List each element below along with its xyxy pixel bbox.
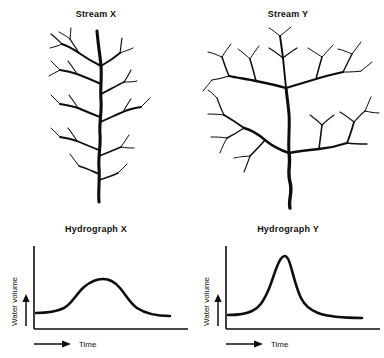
- stream-x-diagram: [0, 22, 192, 210]
- hydrograph-x-title: Hydrograph X: [0, 224, 192, 234]
- stream-y-diagram: [192, 22, 384, 210]
- time-arrow-icon: [226, 340, 263, 347]
- hydrograph-y-title: Hydrograph Y: [192, 224, 384, 234]
- hydrograph-x-x-axis-label: Time: [79, 340, 97, 349]
- stream-y-panel: Stream Y: [192, 0, 384, 212]
- hydrograph-x-chart: Water volume Time: [0, 238, 192, 356]
- water-volume-arrow-icon: [214, 294, 221, 326]
- hydrograph-y-curve: [228, 256, 362, 318]
- hydrograph-y-x-axis-label: Time: [271, 340, 289, 349]
- stream-x-panel: Stream X: [0, 0, 192, 212]
- hydrograph-y-y-axis-label: Water volume: [202, 276, 211, 326]
- hydrograph-x-panel: Hydrograph X Water volume Time: [0, 212, 192, 358]
- time-arrow-icon: [34, 340, 71, 347]
- hydrograph-y-panel: Hydrograph Y Water volume Time: [192, 212, 384, 358]
- water-volume-arrow-icon: [22, 294, 29, 326]
- stream-y-title: Stream Y: [192, 9, 384, 19]
- hydrograph-y-chart: Water volume Time: [192, 238, 384, 356]
- hydrograph-x-curve: [36, 279, 170, 316]
- hydrograph-x-y-axis-label: Water volume: [10, 276, 19, 326]
- stream-x-title: Stream X: [0, 9, 192, 19]
